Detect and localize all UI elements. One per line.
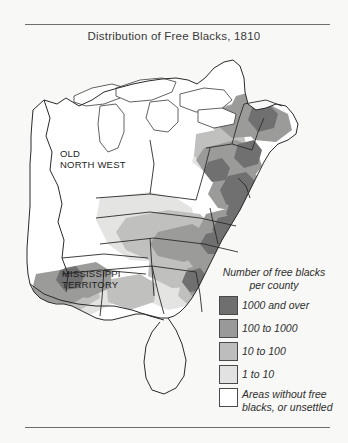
map-legend: Number of free blacks per county 1000 an… [205,266,348,413]
legend-swatch-10-to-100 [219,342,238,361]
legend-item-unsettled: Areas without free blacks, or unsettled [205,388,348,413]
legend-caption-line2: per county [205,279,343,292]
legend-swatch-1000-and-over [219,296,238,315]
region-label-old-north-west: OLD NORTH WEST [60,148,126,170]
legend-label-100-to-1000: 100 to 1000 [242,322,297,335]
legend-item-100-to-1000: 100 to 1000 [205,319,348,338]
map-figure: Distribution of Free Blacks, 1810 [0,0,348,443]
legend-item-10-to-100: 10 to 100 [205,342,348,361]
region-label-line2: TERRITORY [62,279,121,290]
legend-item-1000-and-over: 1000 and over [205,296,348,315]
region-label-mississippi-territory: MISSISSIPPI TERRITORY [62,268,121,290]
legend-caption: Number of free blacks per county [205,266,343,292]
bottom-divider [25,427,330,428]
legend-label-10-to-100: 10 to 100 [242,345,286,358]
legend-swatch-1-to-10 [219,365,238,384]
top-divider [25,24,330,25]
legend-label-1-to-10: 1 to 10 [242,368,274,381]
legend-caption-line1: Number of free blacks [205,266,343,279]
legend-item-1-to-10: 1 to 10 [205,365,348,384]
region-label-line1: MISSISSIPPI [62,268,121,279]
region-label-line1: OLD [60,148,126,159]
page-title: Distribution of Free Blacks, 1810 [0,30,348,42]
legend-label-1000-and-over: 1000 and over [242,299,309,312]
legend-swatch-unsettled [219,388,238,407]
region-label-line2: NORTH WEST [60,159,126,170]
legend-swatch-100-to-1000 [219,319,238,338]
legend-label-unsettled: Areas without free blacks, or unsettled [242,388,348,413]
